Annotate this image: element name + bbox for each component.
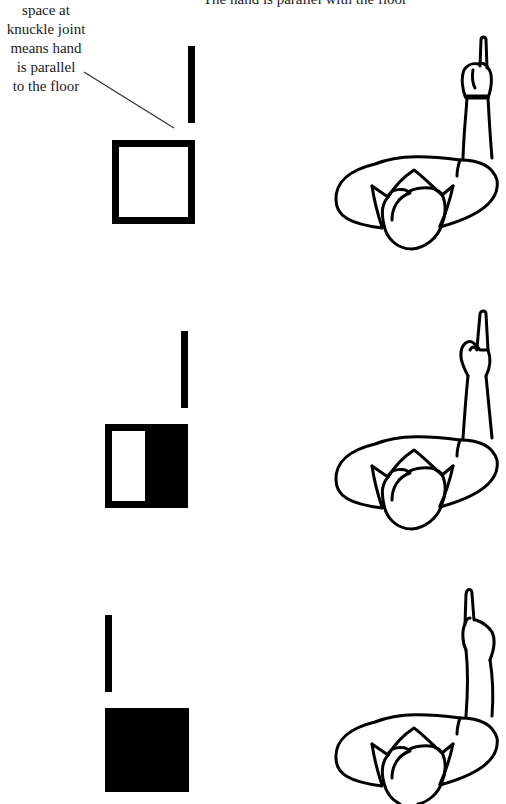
square-indicator-half [105,424,188,508]
knuckle-bar-indicator [105,615,112,692]
knuckle-bar-indicator [188,46,195,123]
leader-line [84,72,174,128]
person-figure-icon [320,20,506,280]
square-indicator-empty [112,140,195,224]
person-figure-icon [320,300,506,560]
knuckle-bar-indicator [181,331,188,408]
square-indicator-filled [105,708,189,792]
square-indicator-window [112,431,145,501]
person-figure-icon [320,580,506,804]
